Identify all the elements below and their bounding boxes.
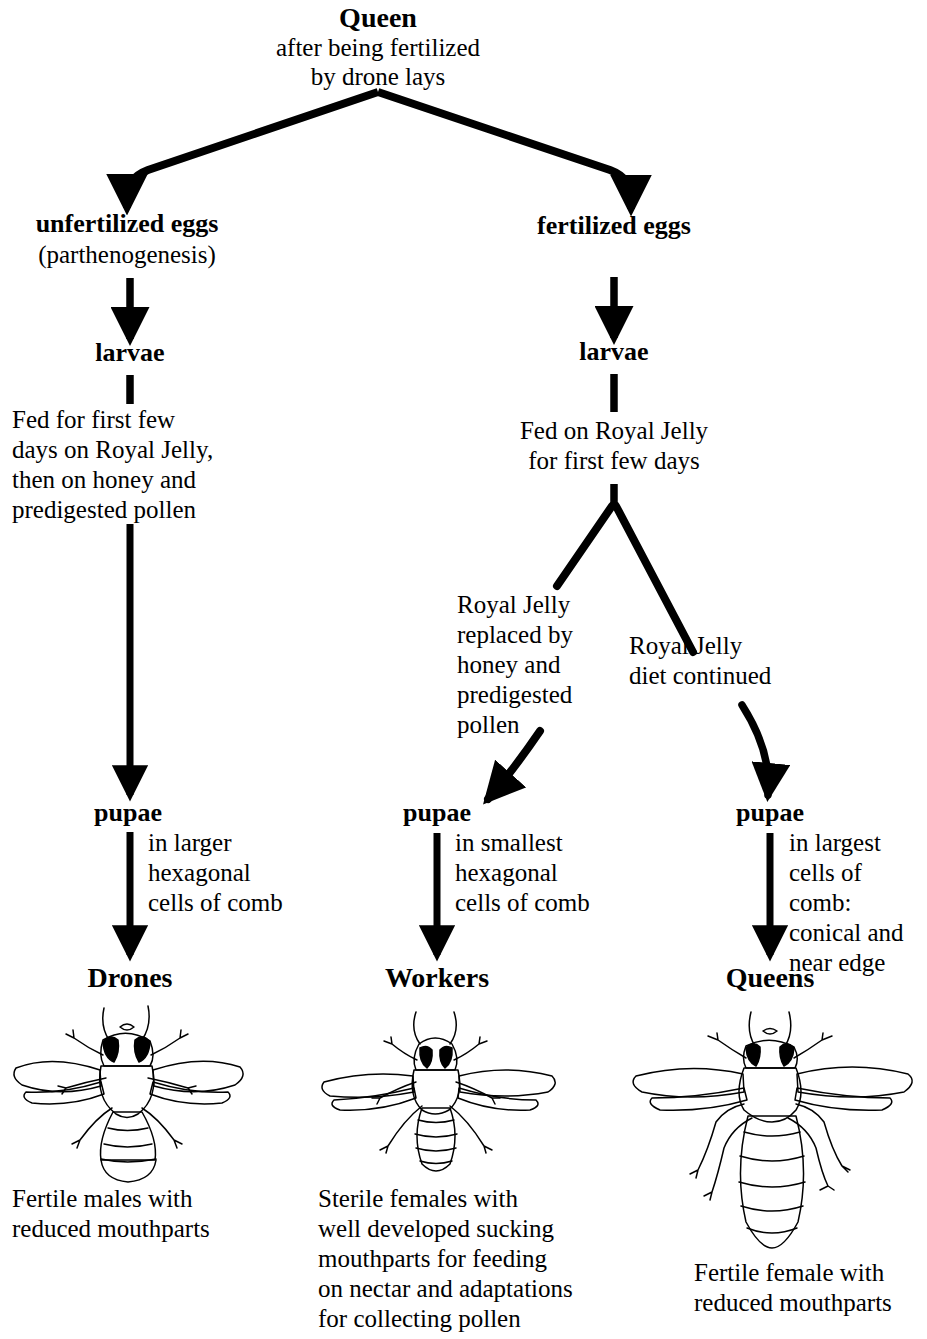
- queen-pupae-note-line4: conical and: [789, 918, 904, 947]
- worker-diet-line1: Royal Jelly: [457, 590, 570, 619]
- queen-diet-line1: Royal Jelly: [629, 631, 742, 660]
- worker-pupae-note-line1: in smallest: [455, 828, 563, 857]
- workers-caption-line4: on nectar and adaptations: [318, 1274, 573, 1303]
- caste-label-queens: Queens: [726, 962, 815, 994]
- worker-bee-icon: [310, 1000, 570, 1180]
- queen-pupae-note-line1: in largest: [789, 828, 881, 857]
- right-feeding-line1: Fed on Royal Jelly: [520, 416, 708, 445]
- fork-to-worker-path: [557, 506, 612, 586]
- queen-diet-line2: diet continued: [629, 661, 771, 690]
- worker-diet-line4: predigested: [457, 680, 572, 709]
- worker-pupae-note-line3: cells of comb: [455, 888, 590, 917]
- workers-caption-line1: Sterile females with: [318, 1184, 518, 1213]
- worker-diet-line5: pollen: [457, 710, 520, 739]
- arrow-queen-diet-to-pupae: [742, 705, 768, 795]
- caste-label-drones: Drones: [87, 962, 172, 994]
- drones-caption-line1: Fertile males with: [12, 1184, 193, 1213]
- right-larvae-label: larvae: [579, 337, 648, 367]
- queens-caption-line2: reduced mouthparts: [694, 1288, 892, 1317]
- right-eggs-label: fertilized eggs: [537, 211, 691, 241]
- queen-bee-icon: [620, 1000, 927, 1250]
- queen-pupae-label: pupae: [736, 798, 804, 828]
- workers-caption-line3: mouthparts for feeding: [318, 1244, 547, 1273]
- root-subtitle-line1: after being fertilized: [276, 33, 480, 62]
- arrow-queen-to-unfertilized: [127, 92, 378, 208]
- bee-caste-flowchart: Queen after being fertilized by drone la…: [0, 0, 927, 1339]
- root-subtitle-line2: by drone lays: [311, 62, 446, 91]
- worker-pupae-note-line2: hexagonal: [455, 858, 558, 887]
- arrow-queen-to-fertilized: [378, 92, 631, 209]
- left-feeding-line3: then on honey and: [12, 465, 196, 494]
- worker-diet-line2: replaced by: [457, 620, 573, 649]
- caste-label-workers: Workers: [385, 962, 489, 994]
- workers-caption-line5: for collecting pollen: [318, 1304, 521, 1333]
- left-pupae-note-line3: cells of comb: [148, 888, 283, 917]
- drones-caption-line2: reduced mouthparts: [12, 1214, 210, 1243]
- left-eggs-note: (parthenogenesis): [38, 240, 216, 269]
- right-feeding-line2: for first few days: [528, 446, 699, 475]
- left-feeding-line2: days on Royal Jelly,: [12, 435, 213, 464]
- left-pupae-label: pupae: [94, 798, 162, 828]
- left-feeding-line1: Fed for first few: [12, 405, 175, 434]
- left-larvae-label: larvae: [95, 338, 164, 368]
- drone-bee-icon: [0, 1000, 270, 1165]
- arrow-worker-diet-to-pupae: [488, 731, 540, 799]
- queens-caption-line1: Fertile female with: [694, 1258, 884, 1287]
- left-feeding-line4: predigested pollen: [12, 495, 196, 524]
- worker-diet-line3: honey and: [457, 650, 560, 679]
- queen-pupae-note-line3: comb:: [789, 888, 852, 917]
- worker-pupae-label: pupae: [403, 798, 471, 828]
- drone-abdomen-tip: [0, 1152, 270, 1188]
- left-pupae-note-line2: hexagonal: [148, 858, 251, 887]
- left-pupae-note-line1: in larger: [148, 828, 232, 857]
- left-eggs-label: unfertilized eggs: [36, 209, 219, 239]
- workers-caption-line2: well developed sucking: [318, 1214, 554, 1243]
- queen-pupae-note-line2: cells of: [789, 858, 862, 887]
- root-heading: Queen: [339, 2, 417, 34]
